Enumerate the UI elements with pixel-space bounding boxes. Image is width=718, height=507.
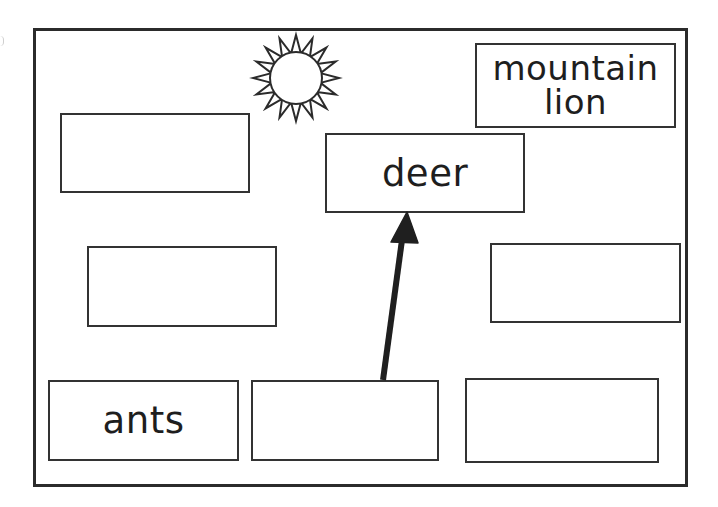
- box-label-ants: ants: [103, 402, 185, 439]
- box-mid-right[interactable]: [490, 243, 681, 323]
- cropped-edge-mark: [0, 36, 4, 46]
- box-mountain-lion[interactable]: mountain lion: [475, 43, 676, 128]
- box-deer[interactable]: deer: [325, 133, 525, 213]
- box-label-mountain-lion: mountain lion: [492, 52, 658, 119]
- box-bottom-middle[interactable]: [251, 380, 439, 461]
- box-ants[interactable]: ants: [48, 380, 239, 461]
- box-mid-left[interactable]: [87, 246, 277, 327]
- box-top-left[interactable]: [60, 113, 250, 193]
- box-bottom-right[interactable]: [465, 378, 659, 463]
- box-label-deer: deer: [382, 155, 468, 192]
